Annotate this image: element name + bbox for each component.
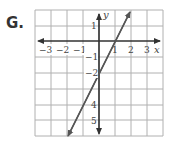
svg-text:−2: −2 — [85, 68, 98, 78]
svg-text:x: x — [154, 44, 160, 55]
coordinate-graph: −3 −2 −1 1 2 3 x y 1 −1 −2 4 5 — [0, 0, 169, 144]
svg-text:4: 4 — [91, 100, 97, 110]
svg-text:5: 5 — [91, 116, 97, 126]
svg-text:−2: −2 — [56, 45, 69, 55]
svg-text:−1: −1 — [85, 52, 98, 62]
svg-text:3: 3 — [144, 45, 150, 55]
svg-text:1: 1 — [91, 21, 97, 31]
svg-text:−3: −3 — [39, 45, 53, 55]
svg-text:y: y — [102, 9, 109, 20]
svg-text:1: 1 — [112, 45, 118, 55]
svg-text:2: 2 — [128, 45, 134, 55]
